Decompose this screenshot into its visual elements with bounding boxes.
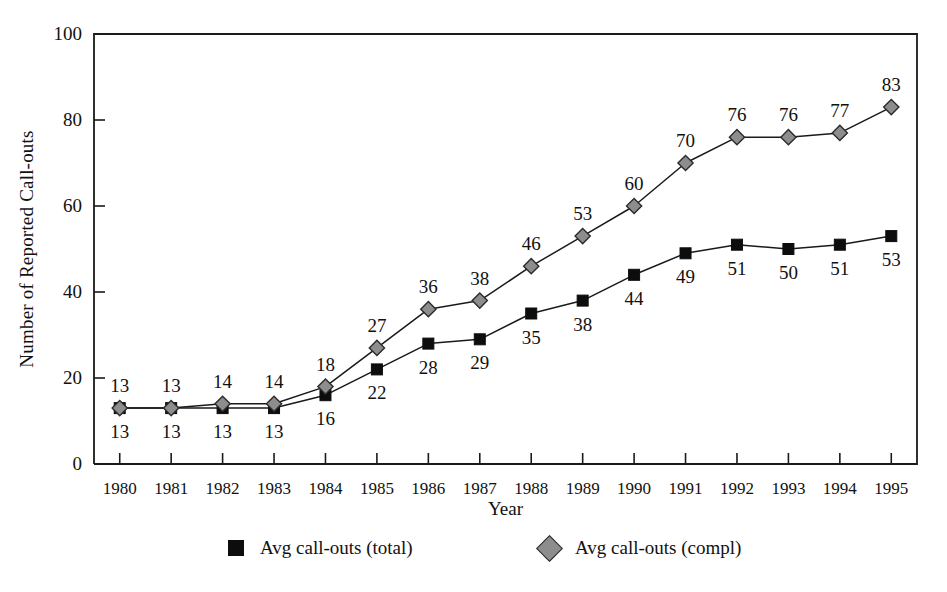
diamond-marker-icon <box>524 259 539 274</box>
y-tick-label: 80 <box>36 110 82 129</box>
data-point-label: 44 <box>614 289 654 308</box>
data-point-label: 14 <box>203 372 243 391</box>
chart-figure: Number of Reported Call-outs Year 020406… <box>0 0 947 592</box>
y-tick-label: 60 <box>36 196 82 215</box>
data-point-label: 27 <box>357 316 397 335</box>
diamond-marker-icon <box>472 293 487 308</box>
data-point-label: 50 <box>768 263 808 282</box>
square-marker-icon <box>834 239 845 250</box>
data-point-label: 53 <box>563 204 603 223</box>
data-point-label: 13 <box>151 376 191 395</box>
data-point-label: 28 <box>408 358 448 377</box>
data-point-label: 49 <box>666 267 706 286</box>
diamond-marker-icon <box>369 340 384 355</box>
data-point-label: 36 <box>408 277 448 296</box>
data-point-label: 51 <box>717 259 757 278</box>
square-marker-icon <box>526 308 537 319</box>
data-point-label: 16 <box>305 409 345 428</box>
data-point-label: 13 <box>203 422 243 441</box>
data-point-label: 18 <box>305 355 345 374</box>
legend-label: Avg call-outs (compl) <box>575 537 741 559</box>
square-marker-icon <box>783 244 794 255</box>
data-point-label: 76 <box>717 105 757 124</box>
data-point-label: 83 <box>871 75 911 94</box>
data-point-label: 13 <box>254 422 294 441</box>
diamond-marker-icon <box>832 125 847 140</box>
data-point-label: 70 <box>666 131 706 150</box>
data-point-label: 14 <box>254 372 294 391</box>
legend-item-2: Avg call-outs (compl) <box>540 533 741 563</box>
data-point-label: 29 <box>460 353 500 372</box>
data-point-label: 38 <box>563 315 603 334</box>
y-tick-label: 40 <box>36 282 82 301</box>
data-point-label: 35 <box>511 328 551 347</box>
y-tick-label: 20 <box>36 368 82 387</box>
data-point-label: 13 <box>151 422 191 441</box>
square-marker-icon <box>371 364 382 375</box>
legend-label: Avg call-outs (total) <box>260 537 413 559</box>
data-point-label: 46 <box>511 234 551 253</box>
data-point-label: 76 <box>768 105 808 124</box>
chart-legend: Avg call-outs (total)Avg call-outs (comp… <box>0 533 947 567</box>
square-marker-icon <box>474 334 485 345</box>
data-point-label: 60 <box>614 174 654 193</box>
x-tick-label: 1995 <box>861 480 921 497</box>
diamond-marker-icon <box>781 130 796 145</box>
data-point-label: 51 <box>820 259 860 278</box>
diamond-marker-icon <box>729 130 744 145</box>
legend-item-1: Avg call-outs (total) <box>228 533 413 563</box>
diamond-marker-icon <box>536 535 563 562</box>
square-marker-icon <box>731 239 742 250</box>
square-marker-icon <box>228 540 244 556</box>
diamond-marker-icon <box>421 302 436 317</box>
square-marker-icon <box>577 295 588 306</box>
y-tick-label: 0 <box>36 454 82 473</box>
square-marker-icon <box>629 269 640 280</box>
square-marker-icon <box>680 248 691 259</box>
diamond-marker-icon <box>884 100 899 115</box>
square-marker-icon <box>423 338 434 349</box>
diamond-marker-icon <box>575 229 590 244</box>
x-axis-title: Year <box>94 498 917 520</box>
data-point-label: 13 <box>100 422 140 441</box>
square-marker-icon <box>886 231 897 242</box>
y-axis-title: Number of Reported Call-outs <box>14 34 40 464</box>
data-point-label: 22 <box>357 383 397 402</box>
data-point-label: 53 <box>871 250 911 269</box>
data-point-label: 13 <box>100 376 140 395</box>
y-tick-label: 100 <box>36 24 82 43</box>
series-line-2 <box>120 107 892 408</box>
data-point-label: 38 <box>460 269 500 288</box>
data-point-label: 77 <box>820 101 860 120</box>
